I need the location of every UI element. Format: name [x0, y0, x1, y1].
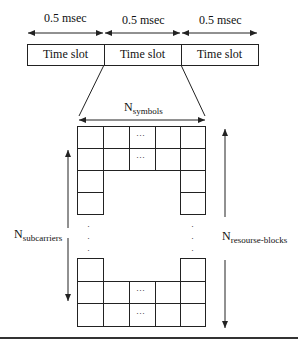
ellipsis-row-bottom-2: ···	[136, 308, 145, 318]
ellipsis-row-bottom-1: ···	[136, 285, 145, 295]
resource-blocks-label: Nresourse-blocks	[222, 229, 287, 245]
time-slot-2: Time slot	[104, 44, 181, 65]
resource-blocks-label-main: N	[222, 229, 231, 243]
subcarriers-label-main: N	[14, 227, 23, 241]
vertical-dot-right-3: ·	[191, 245, 194, 255]
time-slot-1: Time slot	[27, 44, 104, 65]
ellipsis-row-1: ···	[136, 130, 145, 140]
vertical-dot-left-3: ·	[87, 245, 90, 255]
duration-label-3: 0.5 msec	[199, 13, 242, 28]
vertical-dot-right-1: ·	[191, 221, 194, 231]
duration-label-2: 0.5 msec	[122, 13, 165, 28]
duration-label-1: 0.5 msec	[44, 11, 87, 26]
vertical-dot-right-2: ·	[191, 233, 194, 243]
vertical-dot-left-1: ·	[87, 221, 90, 231]
time-slot-3: Time slot	[181, 44, 258, 65]
bottom-rule	[0, 337, 298, 339]
symbols-label-main: N	[124, 100, 133, 114]
symbols-label: Nsymbols	[124, 100, 163, 116]
resource-blocks-label-sub: resourse-blocks	[231, 235, 287, 245]
subcarriers-label-sub: subcarriers	[23, 233, 62, 243]
subcarriers-label: Nsubcarriers	[14, 227, 62, 243]
vertical-dot-left-2: ·	[87, 233, 90, 243]
symbols-label-sub: symbols	[133, 106, 163, 116]
ellipsis-row-2: ···	[136, 152, 145, 162]
